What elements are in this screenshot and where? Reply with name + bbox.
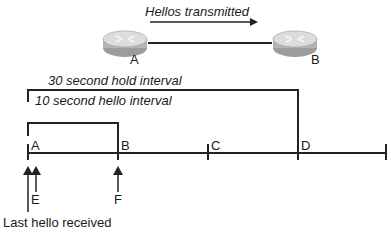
hello-interval-label: 10 second hello interval: [35, 94, 172, 107]
link-line: [148, 42, 272, 44]
point-d-label: D: [301, 139, 310, 152]
hold-bracket-left: [27, 89, 29, 102]
tick-c: [207, 144, 209, 160]
router-a-label: A: [130, 53, 139, 66]
point-c-label: C: [211, 139, 220, 152]
hold-bracket-right: [297, 89, 299, 144]
tick-d: [297, 144, 299, 160]
arrow-f-label: F: [114, 193, 122, 206]
arrow-e-icon: [30, 166, 42, 192]
tick-b: [117, 144, 119, 160]
hold-interval-label: 30 second hold interval: [48, 74, 182, 87]
arrow-f-icon: [112, 166, 124, 192]
point-a-label: A: [31, 139, 40, 152]
hello-bracket-left: [27, 122, 29, 136]
router-a-icon: [102, 30, 148, 58]
hello-bracket-top: [27, 122, 118, 124]
hello-bracket-right: [117, 122, 119, 144]
router-b-label: B: [311, 53, 320, 66]
arrow-e-label: E: [31, 193, 40, 206]
hold-bracket-top: [27, 89, 299, 91]
point-b-label: B: [121, 139, 130, 152]
tick-a: [27, 144, 29, 160]
hellos-arrow-icon: [150, 17, 260, 27]
tick-end: [385, 144, 387, 160]
last-hello-received-label: Last hello received: [3, 216, 111, 229]
